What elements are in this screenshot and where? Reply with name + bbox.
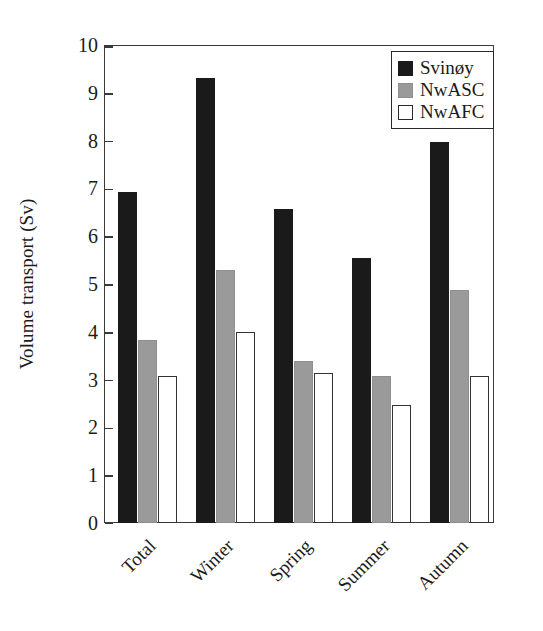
y-tick-label: 7 (60, 178, 98, 198)
legend-swatch-icon (398, 105, 413, 120)
x-tick-label-autumn: Autumn (413, 535, 473, 595)
y-tick-mark (105, 475, 113, 477)
legend-label: NwAFC (420, 101, 484, 123)
x-tick-label-total: Total (118, 535, 161, 578)
bar-chart: Volume transport (Sv) 012345678910 Total… (0, 0, 543, 631)
y-axis-title: Volume transport (Sv) (14, 45, 40, 523)
y-axis-tick-labels: 012345678910 (48, 0, 98, 631)
y-tick-label: 5 (60, 274, 98, 294)
y-tick-mark (105, 236, 113, 238)
y-tick-label: 1 (60, 465, 98, 485)
y-tick-mark (105, 93, 113, 95)
legend-label: Svinøy (420, 57, 474, 79)
legend-swatch-icon (398, 61, 413, 76)
legend-swatch-icon (398, 83, 413, 98)
y-tick-label: 9 (60, 83, 98, 103)
y-tick-label: 3 (60, 370, 98, 390)
legend-label: NwASC (420, 79, 484, 101)
y-tick-label: 4 (60, 322, 98, 342)
y-tick-label: 2 (60, 417, 98, 437)
x-tick-label-winter: Winter (186, 535, 238, 587)
x-axis-tick-labels: TotalWinterSpringSummerAutumn (104, 523, 494, 631)
x-tick-label-spring: Spring (265, 535, 316, 586)
x-tick-label-summer: Summer (333, 535, 394, 596)
y-tick-mark (105, 141, 113, 143)
y-tick-mark (105, 284, 113, 286)
legend: SvinøyNwASCNwAFC (391, 51, 494, 129)
y-tick-mark (105, 380, 113, 382)
legend-item[interactable]: NwAFC (398, 101, 484, 123)
y-tick-mark (105, 332, 113, 334)
y-tick-mark (105, 46, 113, 48)
y-tick-label: 6 (60, 226, 98, 246)
legend-item[interactable]: NwASC (398, 79, 484, 101)
y-tick-mark (105, 428, 113, 430)
y-tick-mark (105, 189, 113, 191)
y-tick-label: 0 (60, 513, 98, 533)
legend-item[interactable]: Svinøy (398, 57, 484, 79)
y-tick-label: 10 (60, 35, 98, 55)
y-tick-label: 8 (60, 131, 98, 151)
